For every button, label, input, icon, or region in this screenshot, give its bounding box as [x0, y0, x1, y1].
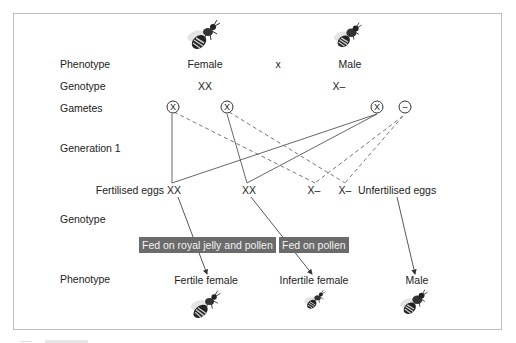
cross-lines — [0, 0, 516, 343]
female-genotype: XX — [198, 80, 212, 92]
diet-royal-jelly-tag: Fed on royal jelly and pollen — [139, 237, 276, 253]
female-phenotype: Female — [187, 58, 222, 70]
diet-pollen-tag: Fed on pollen — [279, 237, 349, 253]
gamete-male-x: X — [371, 101, 384, 114]
male-bee-icon — [331, 20, 365, 54]
unfertilised-eggs-label: Unfertilised eggs — [358, 184, 436, 196]
label-gametes: Gametes — [60, 102, 103, 114]
offspring-fertile-female: Fertile female — [174, 274, 238, 286]
label-phenotype-top: Phenotype — [60, 58, 110, 70]
egg-genotype-3: X– — [308, 184, 321, 196]
female-bee-icon — [184, 18, 224, 56]
egg-genotype-1: XX — [167, 184, 181, 196]
footer-mark — [20, 341, 32, 342]
male-genotype: X– — [333, 80, 346, 92]
label-phenotype-bottom: Phenotype — [60, 273, 110, 285]
fertile-female-bee-icon — [188, 288, 224, 324]
line-gamete3-egg1 — [172, 114, 377, 183]
gamete-female-x-2: X — [221, 101, 234, 114]
infertile-female-bee-icon — [302, 288, 328, 314]
label-genotype-bottom: Genotype — [60, 213, 106, 225]
fertilised-eggs-label: Fertilised eggs — [96, 184, 164, 196]
label-genotype-top: Genotype — [60, 80, 106, 92]
male-phenotype: Male — [339, 58, 362, 70]
arrow-to-fertile-female — [178, 197, 207, 274]
label-generation1: Generation 1 — [60, 142, 121, 154]
egg-genotype-2: XX — [242, 184, 256, 196]
gamete-male-null: – — [399, 101, 412, 114]
line-gamete1-egg3 — [174, 112, 315, 183]
arrow-to-male — [397, 197, 415, 274]
offspring-male: Male — [406, 274, 429, 286]
male-offspring-bee-icon — [397, 288, 431, 320]
line-gamete4-egg3 — [315, 116, 403, 183]
line-gamete2-egg4 — [229, 112, 345, 183]
egg-genotype-4: X– — [339, 184, 352, 196]
offspring-infertile-female: Infertile female — [280, 274, 349, 286]
cross-symbol: x — [275, 58, 280, 70]
line-gamete3-egg2 — [247, 114, 377, 183]
line-gamete2-egg2 — [227, 114, 247, 183]
arrow-to-infertile-female — [251, 197, 312, 274]
gamete-female-x-1: X — [167, 101, 180, 114]
